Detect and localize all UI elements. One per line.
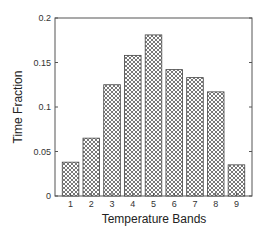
bar-3 [104,85,121,196]
y-tick-label: 0.1 [38,102,51,112]
x-tick-label: 2 [89,199,94,209]
y-tick-label: 0 [46,191,51,201]
x-tick-label: 9 [234,199,239,209]
y-tick-label: 0.05 [33,147,51,157]
x-tick-label: 4 [130,199,135,209]
bar-9 [228,165,245,196]
x-tick-label: 6 [172,199,177,209]
y-axis-label: Time Fraction [11,71,25,144]
bar-8 [207,92,224,196]
x-tick-label: 7 [192,199,197,209]
bar-chart: 00.050.10.150.2 123456789 Time Fraction … [0,0,262,229]
bar-7 [187,78,204,196]
bar-2 [83,138,100,196]
y-tick-label: 0.2 [38,13,51,23]
x-axis-label: Temperature Bands [102,212,207,226]
bar-1 [62,162,79,196]
bar-6 [166,70,183,196]
x-tick-label: 3 [110,199,115,209]
y-tick-label: 0.15 [33,58,51,68]
x-tick-label: 1 [68,199,73,209]
x-tick-label: 8 [213,199,218,209]
bar-5 [145,35,162,196]
bar-4 [124,55,141,196]
x-tick-label: 5 [151,199,156,209]
bars [62,35,244,196]
